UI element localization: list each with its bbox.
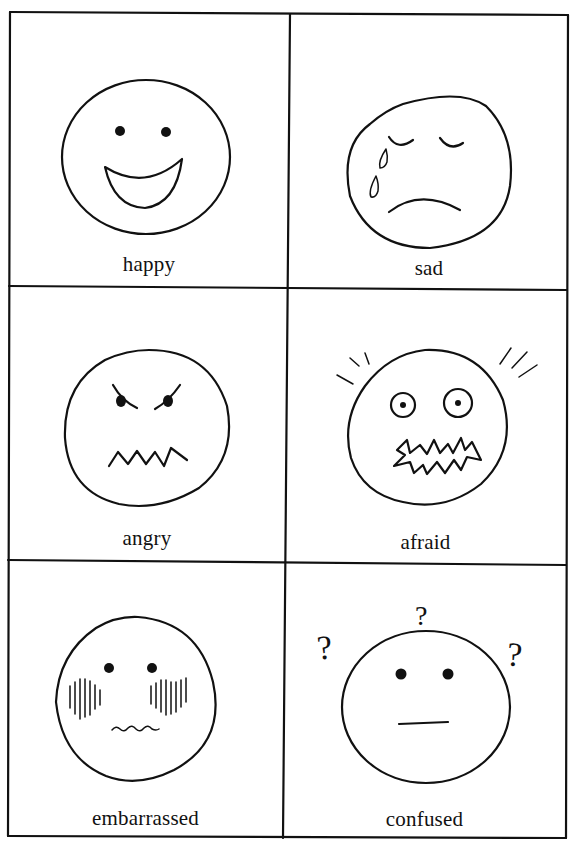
- afraid-face-icon: [285, 290, 566, 562]
- cell-happy: happy: [10, 14, 288, 286]
- label-afraid: afraid: [285, 530, 566, 555]
- question-mark-top-icon: ?: [415, 600, 428, 632]
- embarrassed-face-icon: [8, 562, 283, 836]
- feelings-worksheet: happy sad angry: [0, 0, 573, 844]
- cell-embarrassed: embarrassed: [8, 562, 283, 836]
- question-mark-left-icon: ?: [315, 628, 334, 667]
- angry-face-icon: [9, 288, 285, 560]
- label-sad: sad: [290, 256, 568, 281]
- sad-face-icon: [290, 16, 568, 288]
- label-happy: happy: [10, 252, 288, 277]
- label-confused: confused: [283, 807, 566, 832]
- happy-face-icon: [10, 14, 288, 286]
- cell-confused: ? ? ? confused: [283, 565, 566, 838]
- blush-right-icon: [151, 678, 186, 715]
- cell-sad: sad: [290, 16, 568, 288]
- blush-left-icon: [70, 679, 100, 719]
- label-embarrassed: embarrassed: [8, 806, 283, 831]
- cell-afraid: afraid: [285, 290, 566, 562]
- label-angry: angry: [9, 526, 285, 551]
- cell-angry: angry: [9, 288, 285, 560]
